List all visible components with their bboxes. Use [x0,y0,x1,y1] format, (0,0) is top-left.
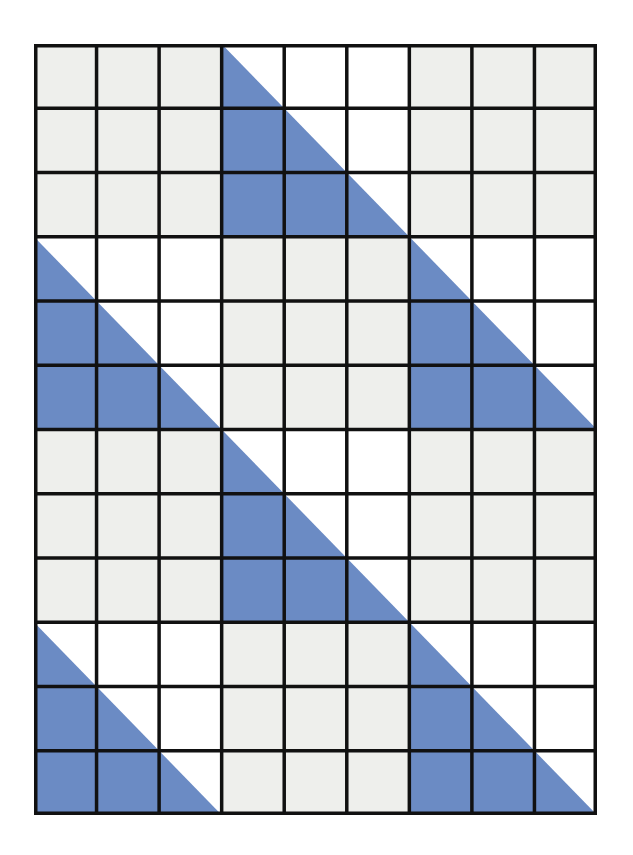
grid-canvas [34,44,597,815]
plain-block [222,237,410,430]
plain-block [34,430,222,623]
plain-block [409,430,597,623]
plain-block [34,44,222,237]
plain-block [409,44,597,237]
plain-block [222,622,410,815]
tiled-grid-diagram: Grid of 3x3 blocks with alternating shad… [34,44,597,815]
